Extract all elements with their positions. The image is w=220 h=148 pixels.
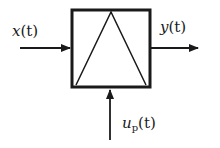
triangle-icon — [76, 12, 146, 85]
output-label: y(t) — [160, 20, 186, 35]
control-label: up(t) — [122, 116, 156, 133]
system-block — [72, 10, 150, 87]
input-label: x(t) — [12, 24, 38, 39]
